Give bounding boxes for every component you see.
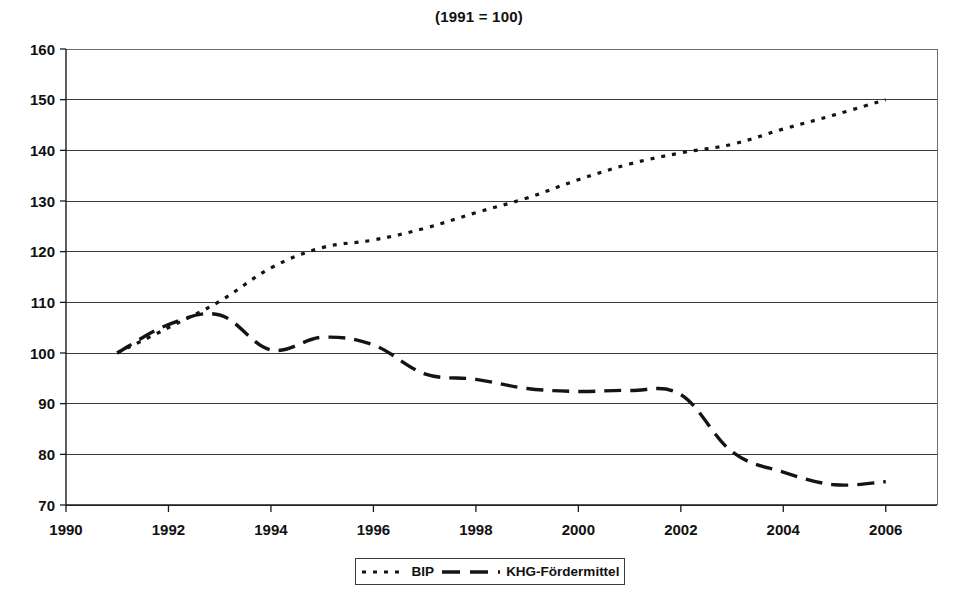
y-tick-label-140: 140 <box>30 142 55 159</box>
y-tick-label-150: 150 <box>30 91 55 108</box>
data-series <box>117 100 886 485</box>
legend-swatch-khg-icon <box>441 566 501 578</box>
legend-swatch-bip-icon <box>361 566 407 578</box>
y-tick-label-160: 160 <box>30 41 55 58</box>
y-tick-label-130: 130 <box>30 193 55 210</box>
y-tick-label-70: 70 <box>38 497 55 514</box>
x-tick-label-2004: 2004 <box>767 521 801 538</box>
legend-item-khg: KHG-Fördermittel <box>441 564 619 579</box>
x-tick-label-1994: 1994 <box>254 521 288 538</box>
legend-label-bip: BIP <box>412 564 435 579</box>
axis-tick-labels: 7080901001101201301401501601990199219941… <box>30 41 902 539</box>
x-tick-label-1996: 1996 <box>357 521 390 538</box>
chart-container: (1991 = 100) 708090100110120130140150160… <box>0 0 958 603</box>
x-tick-label-2000: 2000 <box>562 521 595 538</box>
legend-label-khg: KHG-Fördermittel <box>506 564 619 579</box>
grid-lines <box>66 49 937 505</box>
y-tick-label-100: 100 <box>30 345 55 362</box>
y-tick-label-80: 80 <box>38 446 55 463</box>
x-tick-label-1990: 1990 <box>49 521 82 538</box>
x-tick-label-1992: 1992 <box>152 521 185 538</box>
axis-ticks <box>60 49 886 512</box>
chart-legend: BIP KHG-Fördermittel <box>355 558 625 585</box>
x-tick-label-1998: 1998 <box>459 521 492 538</box>
series-line-bip <box>117 100 886 353</box>
x-tick-label-2002: 2002 <box>664 521 697 538</box>
y-tick-label-110: 110 <box>31 294 55 311</box>
y-tick-label-120: 120 <box>30 243 55 260</box>
x-tick-label-2006: 2006 <box>869 521 902 538</box>
plot-frame <box>66 49 937 505</box>
legend-item-bip: BIP <box>361 564 435 579</box>
y-tick-label-90: 90 <box>38 395 55 412</box>
chart-plot-area: 7080901001101201301401501601990199219941… <box>0 0 958 603</box>
series-line-khg <box>117 314 886 486</box>
